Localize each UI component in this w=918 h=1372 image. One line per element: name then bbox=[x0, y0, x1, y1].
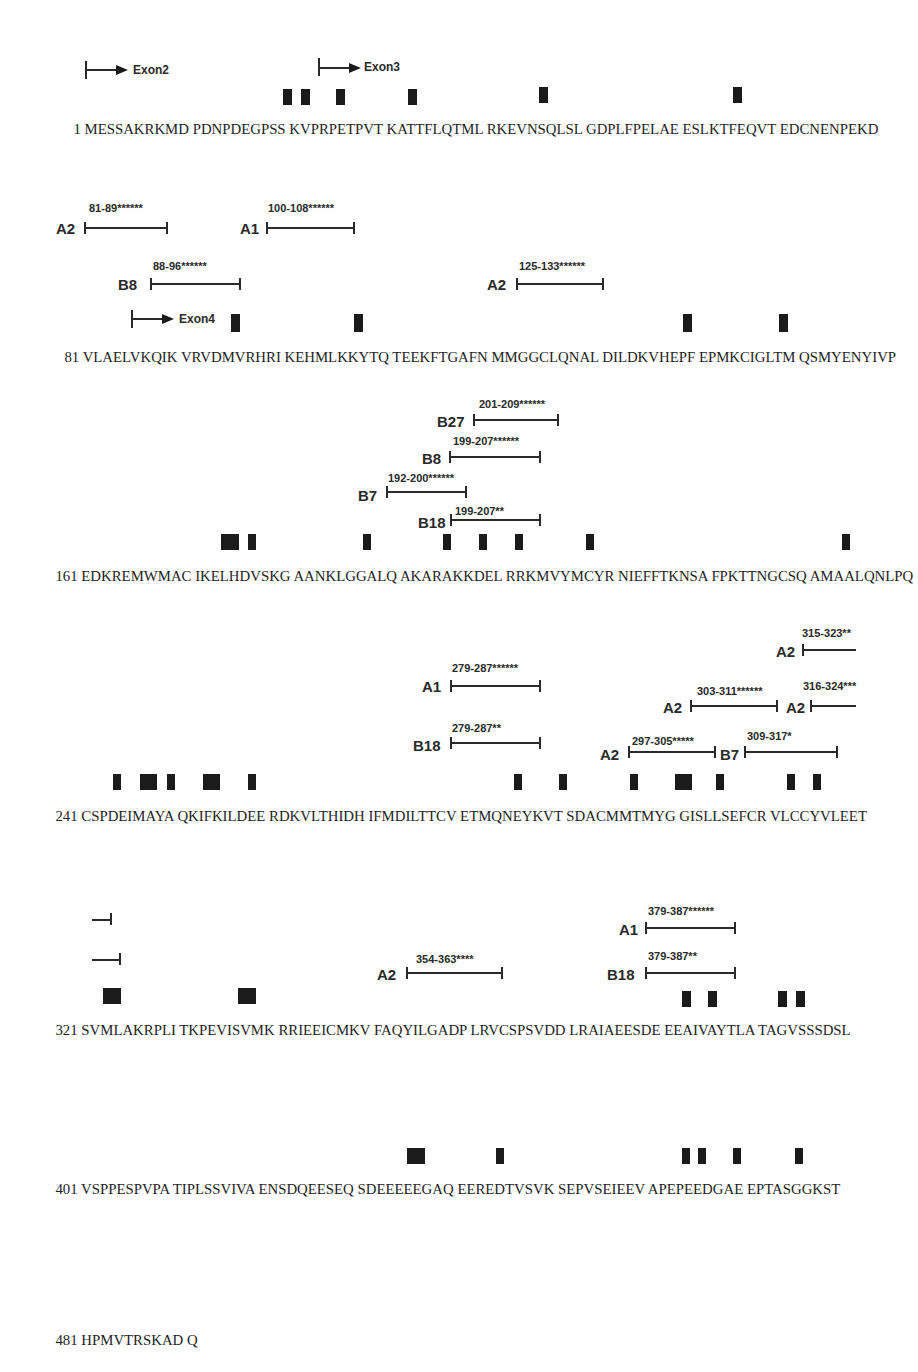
variant-marker bbox=[842, 534, 850, 550]
variant-marker bbox=[787, 774, 795, 790]
variant-marker bbox=[363, 534, 371, 550]
variant-marker bbox=[221, 534, 239, 550]
sequence-row-401: 401 VSPPESPVPA TIPLSSVIVA ENSDQEESEQ SDE… bbox=[48, 1162, 840, 1198]
exon2-label: Exon2 bbox=[133, 63, 169, 77]
variant-marker bbox=[113, 774, 121, 790]
variant-marker bbox=[479, 534, 487, 550]
variant-marker bbox=[539, 87, 548, 103]
variant-marker bbox=[443, 534, 451, 550]
variant-marker bbox=[559, 774, 567, 790]
exon4-label: Exon4 bbox=[179, 312, 215, 326]
variant-marker bbox=[514, 774, 522, 790]
sequence-row-481: 481 HPMVTRSKAD Q bbox=[48, 1313, 198, 1349]
variant-marker bbox=[630, 774, 638, 790]
variant-marker bbox=[248, 534, 256, 550]
variant-marker bbox=[140, 774, 157, 790]
variant-marker bbox=[203, 774, 220, 790]
variant-marker bbox=[813, 774, 821, 790]
variant-marker bbox=[515, 534, 523, 550]
sequence-row-321: 321 SVMLAKRPLI TKPEVISVMK RRIEEICMKV FAQ… bbox=[48, 1003, 851, 1039]
variant-marker bbox=[716, 774, 724, 790]
variant-marker bbox=[103, 988, 121, 1004]
sequence-row-241: 241 CSPDEIMAYA QKIFKILDEE RDKVLTHIDH IFM… bbox=[48, 789, 867, 825]
variant-marker bbox=[248, 774, 256, 790]
variant-marker bbox=[586, 534, 594, 550]
sequence-row-1: 1 MESSAKRKMD PDNPDEGPSS KVPRPETPVT KATTF… bbox=[66, 102, 878, 138]
variant-marker bbox=[733, 87, 742, 103]
sequence-row-81: 81 VLAELVKQIK VRVDMVRHRI KEHMLKKYTQ TEEK… bbox=[57, 330, 896, 366]
exon3-label: Exon3 bbox=[364, 60, 400, 74]
variant-marker bbox=[167, 774, 175, 790]
variant-marker bbox=[238, 988, 256, 1004]
sequence-row-161: 161 EDKREMWMAC IKELHDVSKG AANKLGGALQ AKA… bbox=[48, 549, 913, 585]
variant-marker bbox=[675, 774, 692, 790]
